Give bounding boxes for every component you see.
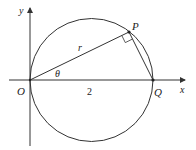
point-q-label: Q — [154, 86, 162, 98]
x-axis-label: x — [179, 84, 185, 95]
point-o — [29, 79, 31, 81]
point-q — [151, 78, 154, 81]
diameter-length-label: 2 — [87, 86, 92, 97]
y-axis-label: y — [18, 5, 24, 16]
point-p-label: P — [131, 20, 139, 32]
radius-label: r — [78, 42, 82, 53]
angle-theta-label: θ — [55, 68, 60, 79]
polar-circle-diagram: y x O P Q r θ 2 — [0, 0, 196, 150]
diagram-svg: y x O P Q r θ 2 — [0, 0, 196, 150]
point-p — [127, 30, 130, 33]
segment-pq — [129, 32, 153, 80]
origin-label: O — [17, 85, 25, 97]
